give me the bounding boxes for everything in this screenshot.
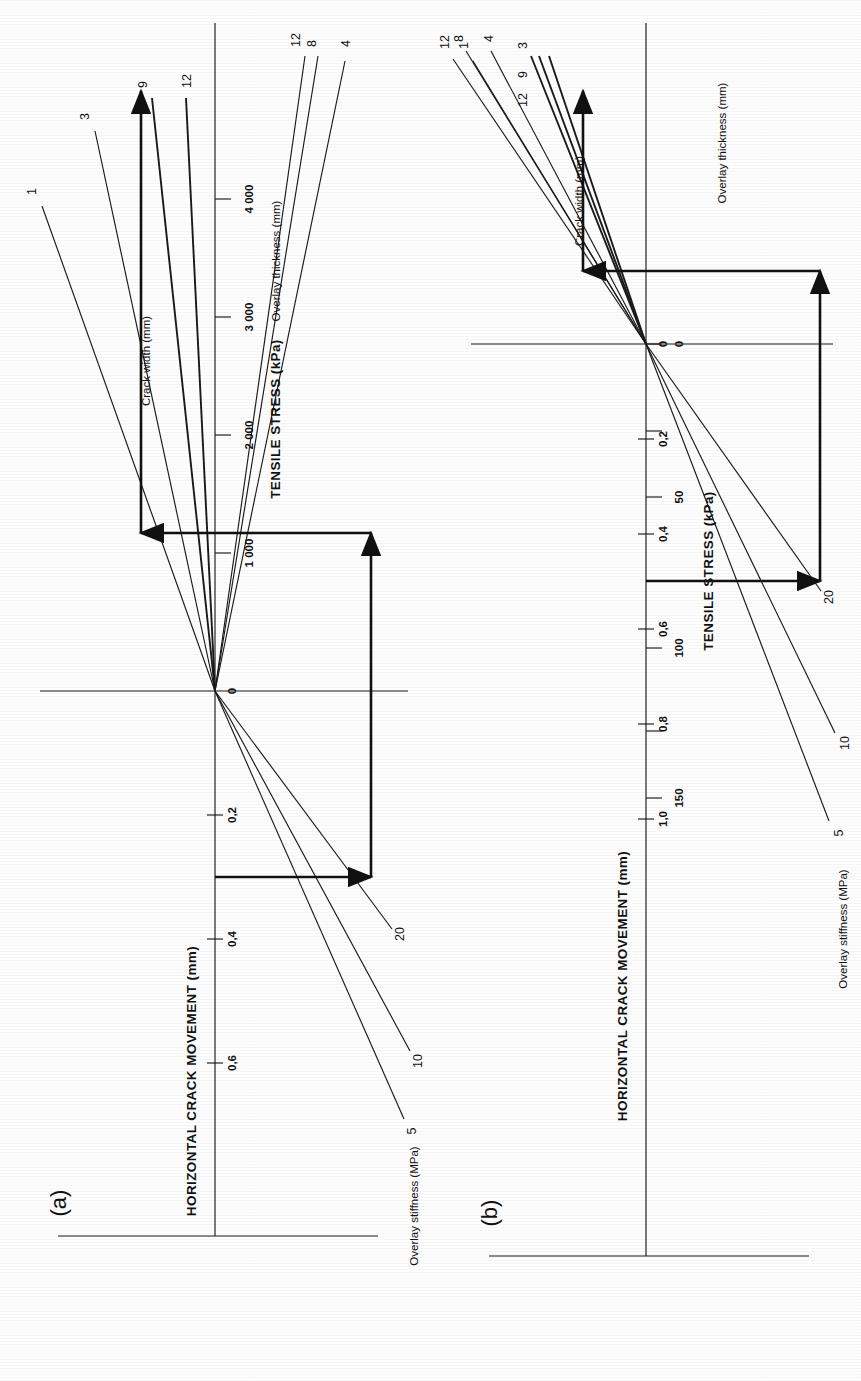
movement-tick-label-0: 0 bbox=[226, 688, 238, 694]
crack-width-ray-12 bbox=[549, 56, 646, 344]
overlay-thickness-ray-8 bbox=[215, 56, 318, 691]
overlay-stiffness-label-20: 20 bbox=[393, 927, 407, 941]
movement-tick-label-06: 0,6 bbox=[657, 621, 669, 637]
stress-tick-label-4000: 4 000 bbox=[243, 185, 255, 214]
overlay-stiffness-label-10: 10 bbox=[838, 736, 852, 750]
nomograph-panel-a: 0 0,2 0,4 0,6 HORIZONTAL CRACK MOVEMENT … bbox=[0, 0, 430, 1381]
overlay-thickness-label-12: 12 bbox=[438, 35, 452, 49]
panel-caption-a: (a) bbox=[46, 1190, 71, 1217]
crack-width-label-3: 3 bbox=[516, 42, 530, 49]
nomograph-a-svg: 0 0,2 0,4 0,6 HORIZONTAL CRACK MOVEMENT … bbox=[0, 0, 430, 1381]
overlay-stiffness-ray-20 bbox=[215, 691, 392, 929]
stress-tick-label-100: 100 bbox=[673, 638, 685, 657]
stress-axis-title: TENSILE STRESS (kPa) bbox=[268, 339, 283, 499]
overlay-thickness-label-4: 4 bbox=[482, 35, 496, 42]
movement-tick-label-02: 0,2 bbox=[226, 807, 238, 823]
overlay-stiffness-title: Overlay stiffness (MPa) bbox=[408, 1146, 420, 1265]
stress-tick-label-50: 50 bbox=[673, 491, 685, 504]
stress-tick-label-1000: 1 000 bbox=[243, 539, 255, 568]
overlay-thickness-ray-4-guide bbox=[477, 55, 646, 344]
crack-width-label-1: 1 bbox=[457, 42, 471, 49]
crack-width-ray-3 bbox=[95, 131, 215, 691]
movement-tick-label-06: 0,6 bbox=[226, 1055, 238, 1071]
overlay-thickness-title: Overlay thickness (mm) bbox=[270, 200, 282, 321]
overlay-stiffness-label-5: 5 bbox=[832, 829, 846, 836]
overlay-stiffness-label-5: 5 bbox=[405, 1127, 419, 1134]
movement-axis-title: HORIZONTAL CRACK MOVEMENT (mm) bbox=[615, 851, 630, 1121]
stress-tick-label-0: 0 bbox=[673, 341, 685, 347]
overlay-thickness-label-8: 8 bbox=[452, 35, 466, 42]
nomograph-b-svg: 0 0,2 0,4 0,6 0,8 1,0 HORIZONTAL CRACK M… bbox=[431, 0, 861, 1381]
overlay-thickness-ray-12 bbox=[215, 56, 305, 691]
movement-tick-label-10: 1,0 bbox=[657, 811, 669, 827]
stress-tick-label-150: 150 bbox=[673, 788, 685, 807]
overlay-stiffness-ray-20 bbox=[646, 344, 821, 591]
overlay-stiffness-ray-5 bbox=[646, 344, 829, 821]
stress-axis-title: TENSILE STRESS (kPa) bbox=[701, 491, 716, 651]
crack-width-ray-9 bbox=[539, 56, 646, 344]
crack-width-label-3: 3 bbox=[78, 113, 92, 120]
movement-axis-title: HORIZONTAL CRACK MOVEMENT (mm) bbox=[184, 946, 199, 1216]
overlay-stiffness-ray-10 bbox=[646, 344, 835, 733]
movement-tick-label-04: 0,4 bbox=[657, 525, 669, 542]
panel-caption-b: (b) bbox=[477, 1200, 502, 1227]
movement-tick-label-02: 0,2 bbox=[657, 431, 669, 447]
crack-width-label-1: 1 bbox=[25, 188, 39, 195]
overlay-thickness-ray-8 bbox=[466, 51, 646, 344]
stress-tick-label-3000: 3 000 bbox=[243, 303, 255, 332]
movement-tick-label-04: 0,4 bbox=[226, 930, 238, 947]
overlay-stiffness-ray-5 bbox=[215, 691, 404, 1119]
figure-page: 0 0,2 0,4 0,6 HORIZONTAL CRACK MOVEMENT … bbox=[0, 0, 861, 1381]
crack-width-label-9: 9 bbox=[516, 71, 530, 78]
crack-width-label-12: 12 bbox=[516, 93, 530, 107]
overlay-stiffness-label-20: 20 bbox=[822, 590, 836, 604]
crack-width-label-12: 12 bbox=[180, 74, 194, 88]
overlay-stiffness-label-10: 10 bbox=[411, 1054, 425, 1068]
overlay-stiffness-title: Overlay stiffness (MPa) bbox=[837, 869, 849, 988]
overlay-thickness-title: Overlay thickness (mm) bbox=[716, 82, 728, 203]
crack-width-ray-12 bbox=[186, 98, 215, 691]
nomograph-panel-b: 0 0,2 0,4 0,6 0,8 1,0 HORIZONTAL CRACK M… bbox=[431, 0, 861, 1381]
stress-tick-label-2000: 2 000 bbox=[243, 421, 255, 450]
overlay-thickness-ray-4 bbox=[491, 51, 646, 344]
overlay-thickness-label-12: 12 bbox=[289, 33, 303, 47]
overlay-thickness-label-4: 4 bbox=[339, 40, 353, 47]
movement-tick-label-08: 0,8 bbox=[657, 715, 669, 732]
crack-width-label-9: 9 bbox=[136, 81, 150, 88]
overlay-thickness-label-8: 8 bbox=[305, 40, 319, 47]
overlay-stiffness-ray-10 bbox=[215, 691, 410, 1051]
